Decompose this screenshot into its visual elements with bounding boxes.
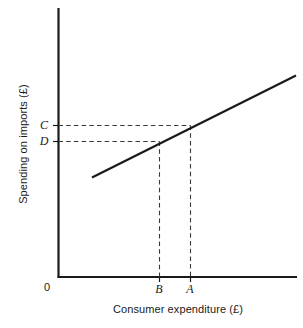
y-axis-title: Spending on imports (£) xyxy=(17,74,29,214)
chart-figure: Spending on imports (£) Consumer expendi… xyxy=(0,0,303,328)
origin-label: 0 xyxy=(40,281,54,293)
chart-plot-area xyxy=(0,0,303,328)
y-tick-label-d: D xyxy=(36,134,52,149)
import-function-line xyxy=(92,76,296,178)
x-tick-label-a: A xyxy=(182,282,198,297)
x-tick-label-b: B xyxy=(151,282,167,297)
x-axis-title: Consumer expenditure (£) xyxy=(58,303,298,315)
y-tick-label-c: C xyxy=(36,118,52,133)
